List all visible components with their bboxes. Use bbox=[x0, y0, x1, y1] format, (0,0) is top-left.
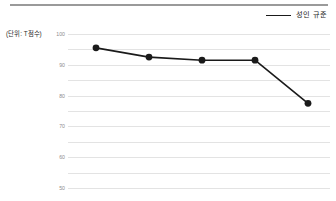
series-line-adult-norm bbox=[96, 48, 308, 103]
data-point bbox=[146, 54, 153, 61]
data-point bbox=[305, 100, 312, 107]
legend-item-label: 성인 규준 bbox=[296, 11, 327, 18]
data-point bbox=[93, 44, 100, 51]
chart-legend: 성인 규준 bbox=[266, 9, 327, 21]
data-point bbox=[252, 57, 259, 64]
y-axis-tick-label: 60 bbox=[59, 156, 65, 161]
plot-area: 1009080706050403020100 bbox=[68, 34, 330, 188]
y-axis-unit-label: (단위: T점수) bbox=[6, 31, 42, 37]
y-axis-tick-label: 80 bbox=[59, 94, 65, 99]
data-point bbox=[199, 57, 206, 64]
y-axis-tick-label: 100 bbox=[56, 32, 65, 37]
legend-line-swatch bbox=[266, 15, 291, 16]
gridline: 0 bbox=[68, 188, 330, 189]
y-axis-tick-label: 90 bbox=[59, 63, 65, 68]
y-axis-tick-label: 70 bbox=[59, 125, 65, 130]
y-axis-tick-label: 50 bbox=[59, 186, 65, 191]
line-series-layer bbox=[68, 34, 330, 188]
chart-figure: 성인 규준 (단위: T점수) 1009080706050403020100 bbox=[0, 0, 336, 201]
header-divider bbox=[10, 4, 328, 6]
